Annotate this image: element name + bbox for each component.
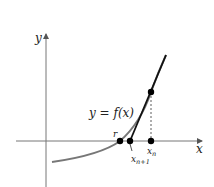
curve-tangent-point [148, 89, 154, 95]
xn1-label-subscript: n+1 [136, 158, 150, 166]
curve-label: y = f(x) [88, 106, 134, 120]
xn-label-subscript: n [152, 150, 156, 158]
root-point [117, 138, 123, 144]
xn-axis-point [148, 138, 154, 144]
xn1-point [127, 138, 133, 144]
xn1-pointer [130, 144, 132, 151]
root-label: r [113, 129, 118, 139]
xn-label: x n [147, 146, 156, 158]
tangent-line [130, 55, 166, 141]
y-axis-label: y [34, 31, 42, 45]
newton-method-diagram: x y y = f(x) r x n x n+1 [0, 0, 214, 187]
x-axis-label: x [196, 142, 203, 156]
